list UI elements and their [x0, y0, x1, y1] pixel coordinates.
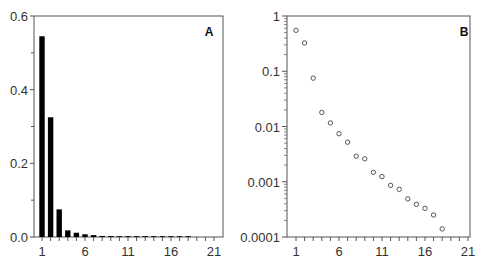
data-point — [345, 140, 349, 144]
data-point — [311, 76, 315, 80]
data-point — [371, 170, 375, 174]
data-point — [354, 154, 358, 158]
y-tick-label: 0.1 — [262, 64, 280, 79]
x-tick-label: 11 — [121, 244, 135, 259]
y-tick-label: 0.6 — [10, 9, 28, 24]
y-tick-label: 0.001 — [247, 175, 280, 190]
panel-b-label: B — [460, 25, 469, 39]
x-tick-label: 6 — [335, 244, 342, 259]
y-tick-label: 0.4 — [10, 83, 28, 98]
bar — [186, 236, 191, 237]
data-point — [337, 132, 341, 136]
bar — [177, 236, 182, 237]
data-point — [414, 202, 418, 206]
y-tick-label: 0.2 — [10, 156, 28, 171]
panel-b-frame — [287, 16, 470, 237]
data-point — [380, 174, 384, 178]
panel-a-x-axis: 16111621 — [38, 237, 221, 259]
panel-b-y-axis: 0.00010.0010.010.11 — [240, 9, 287, 245]
bar — [74, 233, 79, 237]
data-point — [294, 28, 298, 32]
panel-a-frame — [34, 16, 223, 237]
data-point — [388, 183, 392, 187]
bar — [48, 117, 53, 237]
x-tick-label: 16 — [418, 244, 432, 259]
data-point — [302, 41, 306, 45]
x-tick-label: 21 — [461, 244, 475, 259]
panel-b-scatter-chart: 0.00010.0010.010.11 16111621 B — [240, 9, 475, 259]
panel-a-label: A — [205, 25, 214, 39]
x-tick-label: 11 — [375, 244, 389, 259]
data-point — [320, 110, 324, 114]
bar — [65, 230, 70, 237]
panel-b-x-axis: 16111621 — [292, 237, 475, 259]
bar — [39, 36, 44, 237]
bar — [160, 236, 165, 237]
panel-a-y-axis: 0.00.20.40.6 — [10, 9, 34, 245]
bar — [134, 236, 139, 237]
y-tick-label: 0.01 — [255, 120, 280, 135]
panel-a-bars — [39, 36, 191, 237]
bar — [108, 236, 113, 237]
bar — [100, 236, 105, 237]
y-tick-label: 1 — [273, 9, 280, 24]
x-tick-label: 1 — [292, 244, 299, 259]
x-tick-label: 1 — [38, 244, 45, 259]
y-tick-label: 0.0001 — [240, 230, 280, 245]
data-point — [397, 187, 401, 191]
data-point — [328, 121, 332, 125]
panel-b-points — [294, 28, 445, 231]
bar — [57, 209, 62, 237]
data-point — [423, 206, 427, 210]
bar — [151, 236, 156, 237]
bar — [117, 236, 122, 237]
x-tick-label: 21 — [207, 244, 221, 259]
data-point — [431, 213, 435, 217]
bar — [143, 236, 148, 237]
data-point — [440, 227, 444, 231]
bar — [168, 236, 173, 237]
x-tick-label: 6 — [81, 244, 88, 259]
bar — [82, 234, 87, 237]
bar — [125, 236, 130, 237]
data-point — [363, 157, 367, 161]
bar — [91, 235, 96, 237]
x-tick-label: 16 — [164, 244, 178, 259]
figure: 0.00.20.40.6 16111621 A 0.00010.0010.010… — [0, 0, 486, 264]
panel-a-bar-chart: 0.00.20.40.6 16111621 A — [10, 9, 223, 259]
data-point — [406, 197, 410, 201]
y-tick-label: 0.0 — [10, 230, 28, 245]
